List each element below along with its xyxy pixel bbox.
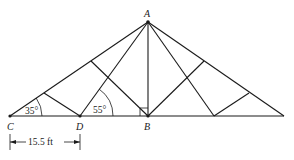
label-B: B — [144, 121, 150, 132]
label-A: A — [143, 8, 151, 19]
member-right-lower-web — [214, 93, 249, 116]
member-A-right-bottom-node — [148, 22, 214, 116]
node-B — [146, 114, 149, 117]
label-D: D — [75, 121, 84, 132]
dimension-label: 15.5 ft — [28, 137, 53, 147]
arrowhead-right-icon — [74, 140, 80, 144]
truss-diagram: A B C D 35° 55° 15.5 ft — [0, 0, 294, 160]
node-A — [146, 20, 150, 24]
angle-label-D: 55° — [93, 105, 107, 115]
member-CA — [10, 22, 148, 116]
member-right-upper-web-to-B — [148, 61, 204, 116]
arrowhead-left-icon — [10, 140, 16, 144]
angle-label-C: 35° — [25, 106, 39, 116]
node-D — [78, 114, 81, 117]
member-left-lower-web-to-D — [44, 93, 80, 116]
member-A-right-end — [148, 22, 284, 116]
member-AD — [80, 22, 148, 116]
node-C — [8, 114, 11, 117]
label-C: C — [7, 121, 14, 132]
